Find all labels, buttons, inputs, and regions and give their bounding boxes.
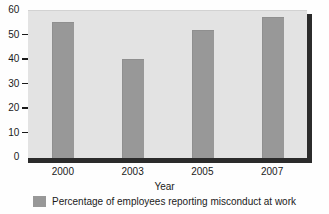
x-axis-label-2003: 2003 — [122, 166, 144, 177]
y-axis-tick-mark — [22, 58, 28, 60]
bar-2003 — [122, 59, 144, 158]
bar-chart-figure: 0102030405060 2000200320052007 Year Perc… — [0, 0, 329, 214]
y-axis-tick-mark — [22, 107, 28, 109]
y-axis-tick-mark — [22, 156, 28, 158]
y-axis-tick-50: 50 — [8, 29, 28, 41]
legend-label-series-1: Percentage of employees reporting miscon… — [52, 196, 296, 207]
y-axis-tick-40: 40 — [8, 53, 28, 65]
y-axis-tick-mark — [22, 83, 28, 85]
y-axis-tick-mark — [22, 132, 28, 134]
bar-2005 — [192, 30, 214, 158]
y-axis-tick-mark — [22, 34, 28, 36]
y-axis-tick-label: 10 — [8, 127, 19, 139]
bar-2000 — [52, 22, 74, 158]
chart-legend: Percentage of employees reporting miscon… — [0, 196, 329, 207]
y-axis-tick-mark — [22, 9, 28, 11]
y-axis-tick-10: 10 — [8, 127, 28, 139]
x-axis-tick-labels: 2000200320052007 — [28, 166, 307, 180]
y-axis-tick-0: 0 — [14, 151, 28, 163]
plot-shadow-right — [307, 14, 312, 163]
y-axis-tick-label: 30 — [8, 78, 19, 90]
y-axis-tick-20: 20 — [8, 102, 28, 114]
bar-2007 — [262, 17, 284, 158]
x-axis-label-2007: 2007 — [261, 166, 283, 177]
y-axis-tick-label: 0 — [14, 151, 19, 163]
y-axis-tick-label: 40 — [8, 53, 19, 65]
y-axis-tick-label: 60 — [8, 4, 19, 16]
plot-area — [28, 10, 307, 158]
y-axis-tick-30: 30 — [8, 78, 28, 90]
x-axis-label-2005: 2005 — [191, 166, 213, 177]
x-axis-title: Year — [0, 181, 329, 192]
y-axis-tick-60: 60 — [8, 4, 28, 16]
y-axis-tick-label: 50 — [8, 29, 19, 41]
y-axis-tick-label: 20 — [8, 102, 19, 114]
x-axis-label-2000: 2000 — [52, 166, 74, 177]
legend-swatch-series-1 — [33, 196, 46, 207]
